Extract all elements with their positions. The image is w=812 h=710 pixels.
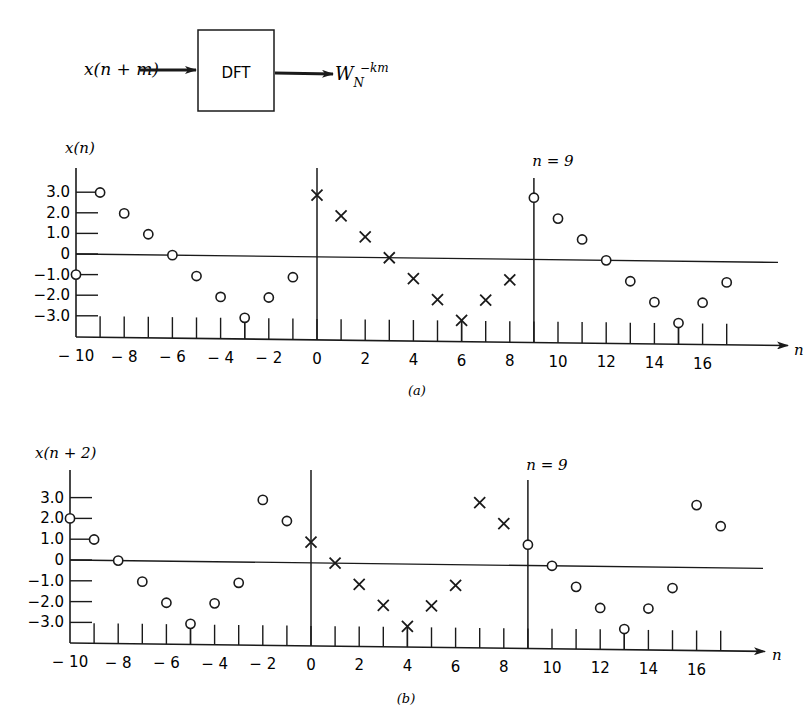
output-label: WN−km [335,61,389,90]
data-point-circle [553,214,562,223]
data-point-circle [168,251,177,260]
y-tick-label: 3.0 [40,489,64,507]
data-point-x [432,294,443,305]
x-tick-label: − 8 [105,654,132,672]
data-point-circle [234,578,243,587]
data-point-circle [722,278,731,287]
x-tick-label: 14 [645,354,664,372]
chart-a-xlabel: n [794,341,804,359]
data-point-circle [674,318,683,327]
data-point-circle [210,599,219,608]
x-tick-label: 12 [597,353,616,371]
chart-b-caption: (b) [397,691,415,706]
data-point-circle [114,556,123,565]
x-tick-label: 10 [542,659,561,677]
x-tick-label: 16 [693,355,712,373]
data-point-circle [692,501,701,510]
chart-b-xlabel: n [772,646,782,664]
data-point-x [408,273,419,284]
chart-b-ylabel: x(n + 2) [35,444,97,462]
data-point-circle [578,235,587,244]
x-tick-label: 6 [451,658,461,676]
chart-a-plot-area: 3.02.01.00−1.0−2.0−3.0− 10− 8− 6− 4− 202… [34,168,788,373]
zero-line [76,254,778,262]
x-tick-label: 2 [360,350,370,368]
x-tick-label: − 6 [153,654,180,672]
x-tick-label: 4 [403,657,413,675]
y-tick-label: 3.0 [46,183,70,201]
y-tick-label: −3.0 [34,307,70,325]
data-point-circle [288,273,297,282]
x-tick-label: 8 [505,352,515,370]
data-point-circle [240,313,249,322]
data-point-circle [264,293,273,302]
x-tick-label: 0 [312,350,322,368]
data-point-circle [668,583,677,592]
x-axis [76,337,788,346]
data-point-circle [626,277,635,286]
data-point-circle [192,271,201,280]
data-point-x [426,600,437,611]
chart-a-ylabel: x(n) [65,139,95,157]
data-point-x [360,231,371,242]
data-point-circle [138,577,147,586]
x-tick-label: − 6 [159,348,186,366]
data-point-x [354,579,365,590]
data-point-circle [547,561,556,570]
figure-canvas: x(n + m) DFT WN−km x(n) n = 9 n (a) 3.02… [0,0,812,710]
y-tick-label: −3.0 [28,613,64,631]
x-tick-label: 2 [354,656,364,674]
data-point-circle [120,209,129,218]
data-point-x [480,295,491,306]
data-point-x [378,600,389,611]
data-point-circle [650,298,659,307]
x-tick-label: 6 [457,352,467,370]
data-point-x [498,518,509,529]
x-tick-label: 8 [499,658,509,676]
y-tick-label: −2.0 [28,593,64,611]
x-axis [70,643,765,651]
y-tick-label: 2.0 [40,509,64,527]
y-tick-label: 0 [54,551,64,569]
x-tick-label: − 10 [58,347,94,365]
y-tick-label: 0 [60,245,70,263]
chart-a-n9-annotation: n = 9 [532,152,574,170]
chart-b: x(n + 2) n = 9 n (b) 3.02.01.00−1.0−2.0−… [28,444,782,706]
output-superscript: −km [360,61,389,75]
dft-block-label: DFT [221,64,251,82]
data-point-circle [523,540,532,549]
y-tick-label: −1.0 [28,572,64,590]
data-point-circle [602,256,611,265]
y-tick-label: 1.0 [46,224,70,242]
data-point-circle [620,624,629,633]
x-tick-label: 16 [687,661,706,679]
chart-a-caption: (a) [408,383,426,398]
data-point-x [450,580,461,591]
data-point-x [504,274,515,285]
y-tick-label: 2.0 [46,204,70,222]
data-point-circle [216,292,225,301]
x-tick-label: 14 [639,660,658,678]
data-point-circle [716,522,725,531]
chart-b-n9-annotation: n = 9 [526,456,568,474]
data-point-circle [71,270,80,279]
x-tick-label: − 4 [201,655,228,673]
data-point-x [474,497,485,508]
data-point-circle [596,603,605,612]
block-diagram: x(n + m) DFT WN−km [84,30,389,111]
y-tick-label: −2.0 [34,286,70,304]
x-tick-label: − 2 [249,655,276,673]
x-tick-label: 4 [409,351,419,369]
data-point-circle [96,188,105,197]
data-point-circle [162,598,171,607]
x-tick-label: − 10 [52,653,88,671]
y-tick-label: −1.0 [34,266,70,284]
data-point-circle [698,298,707,307]
chart-a: x(n) n = 9 n (a) 3.02.01.00−1.0−2.0−3.0−… [34,139,804,398]
output-base: W [335,63,355,84]
x-tick-label: − 4 [207,349,234,367]
data-point-circle [644,604,653,613]
data-point-circle [144,230,153,239]
data-point-circle [282,516,291,525]
x-tick-label: 0 [306,656,316,674]
